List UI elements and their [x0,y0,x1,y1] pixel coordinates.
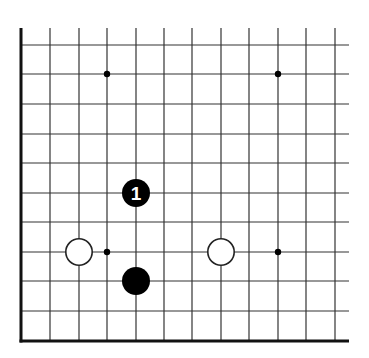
black-stone [122,267,150,295]
star-point-icon [275,71,281,77]
grid-lines [21,28,349,341]
stones: 1 [66,179,234,295]
black-stone-1: 1 [122,179,150,207]
star-point-icon [104,71,110,77]
board-edges [20,28,350,343]
star-point-icon [275,249,281,255]
move-number-label: 1 [131,183,142,204]
white-stone [208,239,234,265]
go-board: 1 [0,0,369,358]
star-point-icon [104,249,110,255]
white-stone [66,239,92,265]
